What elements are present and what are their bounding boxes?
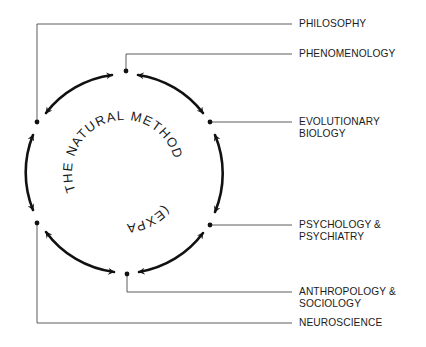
- node-phenomenology[interactable]: [124, 69, 129, 74]
- label-philosophy: PHILOSOPHY: [299, 18, 366, 30]
- label-psychology-psychiatry-line-1: PSYCHOLOGY &: [299, 219, 381, 231]
- node-neuroscience[interactable]: [35, 221, 40, 226]
- label-psychology-psychiatry-line-2: PSYCHIATRY: [299, 231, 381, 243]
- node-philosophy[interactable]: [35, 120, 40, 125]
- connector-neuroscience: [37, 223, 292, 323]
- arrow-lower-left-upper-left: [26, 135, 33, 210]
- label-evolutionary-biology: EVOLUTIONARY BIOLOGY: [299, 116, 380, 140]
- center-title: THE NATURAL METHOD (EXPANDED): [0, 0, 186, 236]
- label-anthropology-sociology: ANTHROPOLOGY & SOCIOLOGY: [299, 286, 396, 310]
- label-philosophy-line-1: PHILOSOPHY: [299, 18, 366, 30]
- label-phenomenology-line-1: PHENOMENOLOGY: [299, 48, 395, 60]
- label-neuroscience-line-1: NEUROSCIENCE: [299, 317, 382, 329]
- node-psychology-psychiatry[interactable]: [208, 223, 213, 228]
- arrow-bottom-lower-left: [46, 232, 114, 272]
- arrow-upper-right-lower-right: [215, 135, 223, 212]
- label-anthropology-sociology-line-2: SOCIOLOGY: [299, 298, 396, 310]
- cycle-arrows: [26, 75, 223, 272]
- connector-philosophy: [37, 24, 292, 122]
- connector-anthropology-sociology: [127, 274, 292, 292]
- connector-lines: [37, 24, 292, 323]
- connector-phenomenology: [126, 54, 292, 71]
- arrow-top-upper-right: [138, 75, 203, 113]
- node-evolutionary-biology[interactable]: [208, 120, 213, 125]
- label-neuroscience: NEUROSCIENCE: [299, 317, 382, 329]
- arrow-upper-left-top: [46, 75, 112, 113]
- label-psychology-psychiatry: PSYCHOLOGY & PSYCHIATRY: [299, 219, 381, 243]
- node-anthropology-sociology[interactable]: [125, 272, 130, 277]
- center-title-main: THE NATURAL METHOD: [60, 108, 186, 195]
- label-evolutionary-biology-line-1: EVOLUTIONARY: [299, 116, 380, 128]
- label-phenomenology: PHENOMENOLOGY: [299, 48, 395, 60]
- label-anthropology-sociology-line-1: ANTHROPOLOGY &: [299, 286, 396, 298]
- arrow-lower-right-bottom: [139, 233, 203, 272]
- label-evolutionary-biology-line-2: BIOLOGY: [299, 128, 380, 140]
- nodes: [35, 69, 213, 277]
